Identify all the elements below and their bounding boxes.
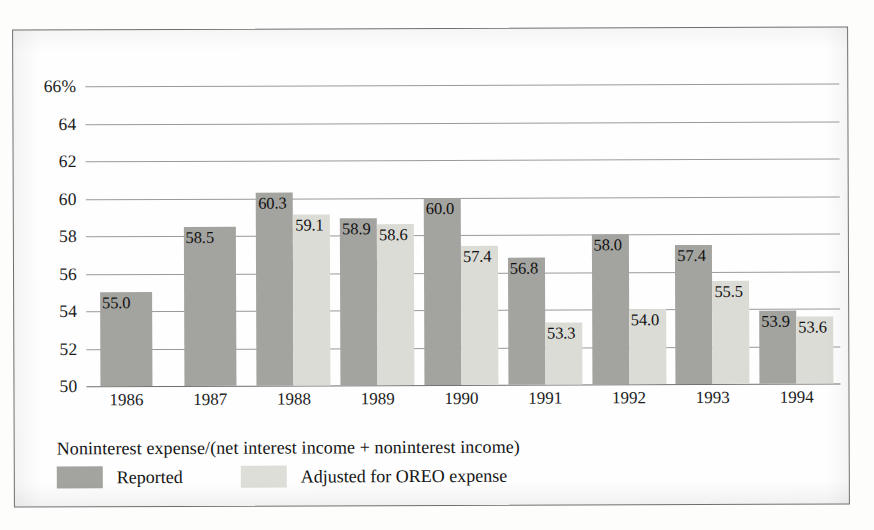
gridlines: 505254565860626466% — [85, 83, 839, 86]
y-axis-tick-58: 58 — [59, 226, 77, 247]
bar-label-reported-1993: 57.4 — [677, 246, 706, 266]
bar-label-reported-1992: 58.0 — [593, 235, 622, 255]
bar-label-reported-1994: 53.9 — [761, 311, 790, 331]
bar-label-reported-1988: 60.3 — [258, 193, 287, 213]
bar-label-adjusted-1993: 55.5 — [714, 282, 743, 302]
gridline-66 — [85, 83, 839, 87]
y-axis-tick-56: 56 — [59, 263, 77, 284]
x-axis-tick-1994: 1994 — [780, 388, 814, 408]
bar-label-adjusted-1990: 57.4 — [463, 247, 492, 267]
bar-adjusted-1989 — [377, 224, 415, 385]
y-axis-tick-60: 60 — [59, 188, 77, 209]
gridline-62 — [86, 158, 840, 162]
gridline-64 — [85, 121, 839, 125]
bar-label-adjusted-1994: 53.6 — [798, 317, 827, 337]
bar-label-adjusted-1988: 59.1 — [295, 216, 324, 236]
bar-reported-1987 — [183, 226, 236, 386]
x-axis-tick-1987: 1987 — [193, 390, 227, 410]
legend-entries: ReportedAdjusted for OREO expense — [57, 462, 797, 491]
bar-label-reported-1987: 58.5 — [186, 227, 215, 247]
bar-label-reported-1989: 58.9 — [342, 219, 371, 239]
gridline-60 — [86, 196, 840, 200]
legend-label-reported: Reported — [117, 466, 183, 487]
plot-area: 505254565860626466% 55.058.560.359.158.9… — [85, 83, 840, 386]
y-axis-tick-50: 50 — [60, 376, 78, 397]
y-axis-tick-54: 54 — [59, 301, 77, 322]
y-axis-tick-64: 64 — [59, 113, 77, 134]
x-axis-tick-1992: 1992 — [612, 388, 646, 408]
x-axis-tick-1991: 1991 — [528, 388, 562, 408]
y-axis-tick-52: 52 — [59, 338, 77, 359]
bar-reported-1989 — [340, 218, 378, 385]
x-axis-tick-1988: 1988 — [277, 389, 311, 409]
bar-label-reported-1986: 55.0 — [102, 293, 131, 313]
bar-label-reported-1991: 56.8 — [510, 258, 539, 278]
x-axis-tick-1993: 1993 — [696, 388, 730, 408]
figure-root: 505254565860626466% 55.058.560.359.158.9… — [0, 0, 874, 530]
bar-label-reported-1990: 60.0 — [426, 198, 455, 218]
y-axis-tick-62: 62 — [59, 151, 77, 172]
legend-swatch-reported — [57, 466, 103, 488]
x-axis-tick-1990: 1990 — [444, 389, 478, 409]
bar-reported-1988 — [256, 192, 294, 385]
chart-frame: 505254565860626466% 55.058.560.359.158.9… — [12, 26, 850, 507]
y-axis-tick-66: 66% — [44, 76, 77, 97]
bar-label-adjusted-1991: 53.3 — [547, 324, 576, 344]
bar-reported-1990 — [424, 197, 462, 385]
legend-caption: Noninterest expense/(net interest income… — [57, 436, 797, 460]
legend: Noninterest expense/(net interest income… — [57, 436, 797, 491]
x-axis-tick-1989: 1989 — [361, 389, 395, 409]
legend-swatch-adjusted — [241, 466, 287, 488]
legend-label-adjusted: Adjusted for OREO expense — [301, 465, 508, 487]
bar-label-adjusted-1992: 54.0 — [631, 310, 660, 330]
bar-reported-1992 — [591, 234, 629, 384]
bar-label-adjusted-1989: 58.6 — [379, 225, 408, 245]
x-axis-tick-1986: 1986 — [109, 390, 143, 410]
bar-adjusted-1988 — [293, 215, 331, 386]
